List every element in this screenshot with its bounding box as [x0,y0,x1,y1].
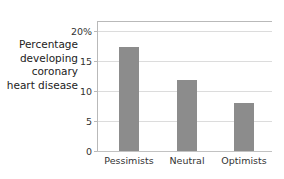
bar-pessimists[interactable] [119,47,139,151]
gridline [98,31,272,32]
y-axis-line [97,21,98,152]
category-label-neutral: Neutral [169,155,204,166]
y-tick-mark [94,61,97,62]
y-tick-label: 10 [80,86,92,97]
bar-neutral[interactable] [177,80,197,151]
y-tick-mark [94,121,97,122]
bar-optimists[interactable] [234,103,254,151]
category-label-pessimists: Pessimists [104,155,153,166]
bar-chart-figure: Percentage developing coronary heart dis… [0,0,284,179]
x-axis-line [97,151,272,152]
y-tick-label: 0 [86,146,92,157]
category-label-optimists: Optimists [221,155,266,166]
plot-top-border [97,21,272,22]
y-tick-label: 20% [71,26,92,37]
plot-area: 20%151050 PessimistsNeutralOptimists [97,21,272,152]
y-tick-mark [94,91,97,92]
y-tick-label: 5 [86,116,92,127]
y-axis-caption: Percentage developing coronary heart dis… [2,38,78,92]
y-tick-mark [94,151,97,152]
y-tick-mark [94,31,97,32]
y-tick-label: 15 [80,56,92,67]
